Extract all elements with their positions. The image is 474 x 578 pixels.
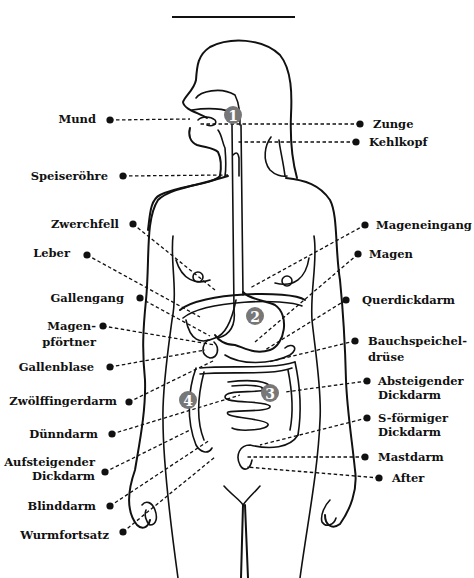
label-wurmfortsatz: Wurmfortsatz bbox=[19, 528, 109, 542]
dot-absteigender-dickdarm bbox=[363, 377, 370, 384]
leader-mund bbox=[110, 119, 190, 120]
leader-aufsteigender-dickdarm bbox=[105, 430, 190, 472]
leader-mageneingang bbox=[250, 225, 365, 288]
dot-gallenblase bbox=[106, 363, 113, 370]
svg-text:2: 2 bbox=[250, 309, 260, 325]
dot-aufsteigender-dickdarm bbox=[101, 468, 108, 475]
badge-4: 4 bbox=[179, 391, 197, 409]
body-outline bbox=[129, 41, 356, 578]
label-aufsteigender-dickdarm: Aufsteigender bbox=[3, 455, 96, 469]
label-s-foermiger-dickdarm: Dickdarm bbox=[378, 425, 441, 439]
dot-leber bbox=[83, 251, 90, 258]
label-absteigender-dickdarm: Absteigender bbox=[377, 374, 465, 388]
badge-2: 2 bbox=[246, 307, 264, 325]
badge-3: 3 bbox=[261, 384, 279, 402]
dot-mund bbox=[106, 116, 113, 123]
label-querdickdarm: Querdickdarm bbox=[362, 293, 455, 307]
dot-blinddarm bbox=[106, 502, 113, 509]
label-bauchspeicheldruese: drüse bbox=[368, 350, 404, 364]
step-badges: 1234 bbox=[179, 106, 279, 409]
label-blinddarm: Blinddarm bbox=[27, 499, 96, 513]
label-absteigender-dickdarm: Dickdarm bbox=[378, 388, 441, 402]
dot-kehlkopf bbox=[352, 138, 359, 145]
svg-text:1: 1 bbox=[228, 108, 238, 124]
label-mastdarm: Mastdarm bbox=[378, 450, 444, 464]
label-zwoelffingerdarm: Zwölffingerdarm bbox=[9, 394, 117, 408]
dot-querdickdarm bbox=[342, 296, 349, 303]
label-zwerchfell: Zwerchfell bbox=[51, 217, 120, 231]
label-aufsteigender-dickdarm: Dickdarm bbox=[32, 469, 95, 483]
label-mund: Mund bbox=[59, 112, 97, 126]
label-bauchspeicheldruese: Bauchspeichel- bbox=[368, 334, 467, 348]
dot-s-foermiger-dickdarm bbox=[363, 414, 370, 421]
dot-zwerchfell bbox=[129, 220, 136, 227]
label-zunge: Zunge bbox=[373, 117, 413, 131]
leader-after bbox=[247, 467, 379, 478]
label-after: After bbox=[391, 471, 425, 485]
dot-bauchspeicheldruese bbox=[351, 337, 358, 344]
digestive-system-diagram: 1234 MundSpeiseröhreZwerchfellLeberGalle… bbox=[0, 0, 474, 578]
dot-magenpfoertner bbox=[99, 322, 106, 329]
organ-labels: MundSpeiseröhreZwerchfellLeberGallengang… bbox=[3, 112, 472, 542]
label-mageneingang: Mageneingang bbox=[376, 218, 472, 232]
label-kehlkopf: Kehlkopf bbox=[369, 135, 428, 149]
label-duenndarm: Dünndarm bbox=[29, 427, 98, 441]
dot-duenndarm bbox=[108, 430, 115, 437]
label-s-foermiger-dickdarm: S-förmiger bbox=[378, 411, 449, 425]
label-leber: Leber bbox=[33, 246, 71, 260]
dot-magen bbox=[354, 250, 361, 257]
dot-gallengang bbox=[136, 294, 143, 301]
dot-mageneingang bbox=[361, 221, 368, 228]
label-speiseroehre: Speiseröhre bbox=[31, 169, 108, 183]
leader-absteigender-dickdarm bbox=[285, 381, 367, 392]
label-magenpfoertner: Magen- bbox=[47, 319, 96, 333]
dot-after bbox=[375, 474, 382, 481]
dot-speiseroehre bbox=[119, 172, 126, 179]
svg-text:4: 4 bbox=[183, 393, 193, 409]
dot-zunge bbox=[356, 120, 363, 127]
dot-zwoelffingerdarm bbox=[125, 398, 132, 405]
leader-gallenblase bbox=[110, 350, 205, 367]
dot-wurmfortsatz bbox=[119, 528, 126, 535]
badge-1: 1 bbox=[224, 106, 242, 124]
leader-speiseroehre bbox=[123, 175, 228, 176]
label-magen: Magen bbox=[369, 247, 414, 261]
label-magenpfoertner: pförtner bbox=[42, 335, 97, 349]
svg-text:3: 3 bbox=[265, 386, 275, 402]
leader-wurmfortsatz bbox=[123, 457, 215, 532]
dot-mastdarm bbox=[361, 453, 368, 460]
leader-magenpfoertner bbox=[103, 326, 215, 345]
label-gallenblase: Gallenblase bbox=[19, 360, 94, 374]
label-gallengang: Gallengang bbox=[50, 291, 124, 305]
leader-leber bbox=[87, 255, 200, 317]
